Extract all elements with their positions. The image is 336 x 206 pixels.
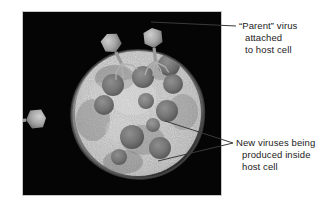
virus-infection-figure: “Parent” virus attached to host cell New…	[0, 0, 336, 206]
annotation-parent-virus-line-3: to host cell	[239, 44, 297, 56]
annotation-new-viruses-line-3: host cell	[236, 161, 315, 173]
annotation-new-viruses: New viruses being produced inside host c…	[236, 137, 315, 173]
annotation-parent-virus-line-2: attached	[239, 32, 297, 44]
micrograph-panel	[22, 11, 222, 196]
annotation-parent-virus-line-1: “Parent” virus	[239, 20, 297, 32]
micrograph-image	[23, 12, 221, 195]
annotation-new-viruses-line-1: New viruses being	[236, 137, 315, 149]
annotation-new-viruses-line-2: produced inside	[236, 149, 315, 161]
annotation-parent-virus: “Parent” virus attached to host cell	[239, 20, 297, 56]
